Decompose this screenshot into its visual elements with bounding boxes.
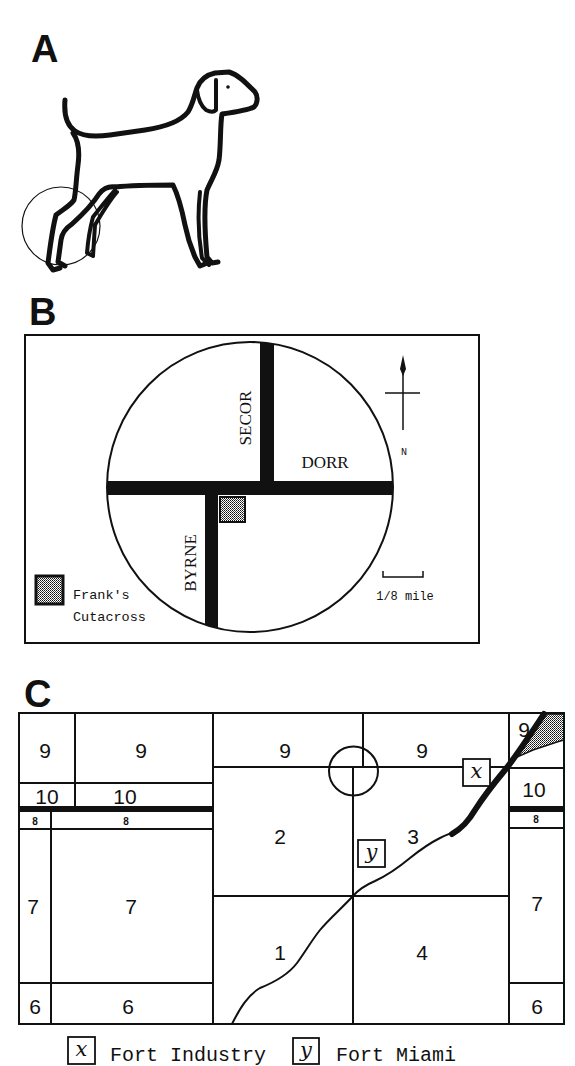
section-label: 6	[29, 995, 41, 1018]
section-label: 6	[531, 995, 543, 1018]
panel-b: B SECOR DORR BYRNE N 1/8 mile Frank's Cu…	[25, 291, 479, 648]
road-secor	[260, 330, 274, 488]
section-label: 8	[533, 814, 539, 825]
legend-label-fort-miami: Fort Miami	[336, 1044, 456, 1066]
north-label: N	[401, 447, 407, 458]
figure: A B SECOR DORR BYRNE	[0, 0, 575, 1066]
dog-icon	[48, 72, 257, 270]
legend-swatch-cutacross	[36, 576, 63, 604]
dog-hind-leg-back	[48, 133, 79, 270]
street-label-dorr: DORR	[301, 453, 349, 472]
marker-y-letter: y	[365, 840, 379, 864]
section-label: 9	[39, 739, 51, 762]
section-label: 7	[27, 895, 39, 918]
scale-label: 1/8 mile	[376, 590, 434, 604]
dog-eye-icon	[226, 85, 230, 89]
section-label: 9	[279, 739, 291, 762]
panel-c: C 9 9 1	[19, 673, 564, 1066]
river-line	[232, 830, 458, 1024]
legend-label-line1: Frank's	[73, 588, 130, 603]
section-label: 9	[135, 739, 147, 762]
section-label: 9	[416, 739, 428, 762]
panel-a: A	[22, 28, 257, 270]
panel-a-label: A	[31, 28, 58, 70]
marker-fort-miami: y	[358, 840, 385, 867]
franks-cutacross-site	[220, 497, 245, 522]
dog-far-hind-leg	[87, 190, 117, 256]
section-label: 3	[407, 825, 419, 848]
road-dorr	[100, 481, 400, 495]
marker-x-letter: x	[471, 759, 483, 783]
section-label: 10	[113, 785, 136, 808]
section-label: 6	[122, 995, 134, 1018]
marker-fort-industry: x	[463, 759, 490, 786]
section-label: 2	[274, 825, 286, 848]
section-label: 8	[32, 816, 38, 827]
section-label: 1	[274, 941, 286, 964]
legend-item-fort-miami: y Fort Miami	[293, 1038, 456, 1066]
scale-bar	[383, 571, 423, 577]
north-arrow-icon	[385, 355, 420, 430]
legend-item-fort-industry: x Fort Industry	[68, 1037, 266, 1066]
section-label: 9	[518, 718, 530, 741]
street-label-secor: SECOR	[236, 390, 255, 445]
dog-belly-front-leg	[115, 185, 205, 266]
section-label: 10	[35, 785, 58, 808]
panel-c-label: C	[24, 673, 51, 715]
thick-road-right	[509, 806, 564, 812]
street-label-byrne: BYRNE	[181, 534, 200, 592]
legend-label-line2: Cutacross	[73, 610, 146, 625]
section-label: 7	[125, 895, 137, 918]
legend-label-fort-industry: Fort Industry	[110, 1044, 266, 1066]
section-label: 7	[531, 892, 543, 915]
legend-marker-x: x	[76, 1037, 88, 1061]
road-byrne	[205, 488, 218, 648]
section-label: 10	[522, 778, 545, 801]
panel-b-label: B	[29, 291, 56, 333]
section-label: 4	[416, 941, 428, 964]
legend-marker-y: y	[299, 1038, 313, 1062]
section-label: 8	[123, 816, 129, 827]
road-network	[100, 330, 400, 648]
